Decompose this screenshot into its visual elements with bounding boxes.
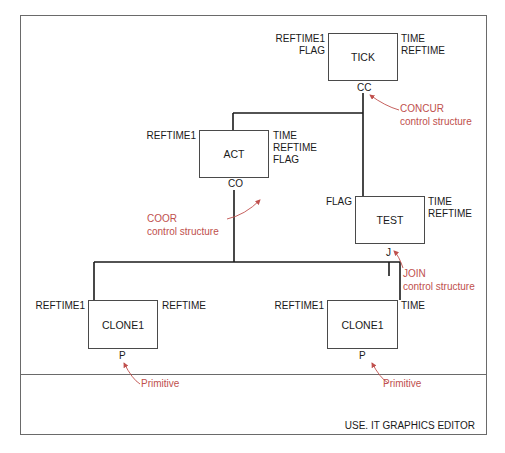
clone-left-outputs: REFTIME [162,300,206,312]
annotation-concur: CONCUR control structure [400,103,472,128]
test-outputs: TIME REFTIME [428,196,472,220]
act-control-co: CO [228,178,243,190]
node-test-label: TEST [377,214,404,226]
node-test[interactable]: TEST [355,196,425,244]
act-inputs: REFTIME1 [140,130,196,142]
node-tick-label: TICK [351,51,375,63]
node-clone-left[interactable]: CLONE1 [88,300,158,349]
node-clone-right-label: CLONE1 [341,319,383,331]
test-control-j: J [386,247,391,259]
clone-right-inputs: REFTIME1 [270,300,324,312]
clone-right-outputs: TIME [401,300,425,312]
node-tick[interactable]: TICK [328,33,398,81]
editor-status-label: USE. IT GRAPHICS EDITOR [345,420,475,431]
node-act[interactable]: ACT [199,130,269,178]
clone-right-control-p: P [359,350,366,362]
node-clone-right[interactable]: CLONE1 [327,300,398,349]
annotation-primitive-left: Primitive [141,378,179,391]
annotation-join: JOIN control structure [403,268,475,293]
node-act-label: ACT [224,148,245,160]
tick-inputs: REFTIME1 FLAG [272,33,325,57]
node-clone-left-label: CLONE1 [102,319,144,331]
tick-control-cc: CC [357,82,371,94]
test-inputs: FLAG [317,196,352,208]
connection-lines [0,0,505,453]
clone-left-control-p: P [119,350,126,362]
annotation-primitive-right: Primitive [383,378,421,391]
annotation-coor: COOR control structure [147,213,219,238]
clone-left-inputs: REFTIME1 [30,300,85,312]
act-outputs: TIME REFTIME FLAG [273,130,317,166]
tick-outputs: TIME REFTIME [401,33,445,57]
